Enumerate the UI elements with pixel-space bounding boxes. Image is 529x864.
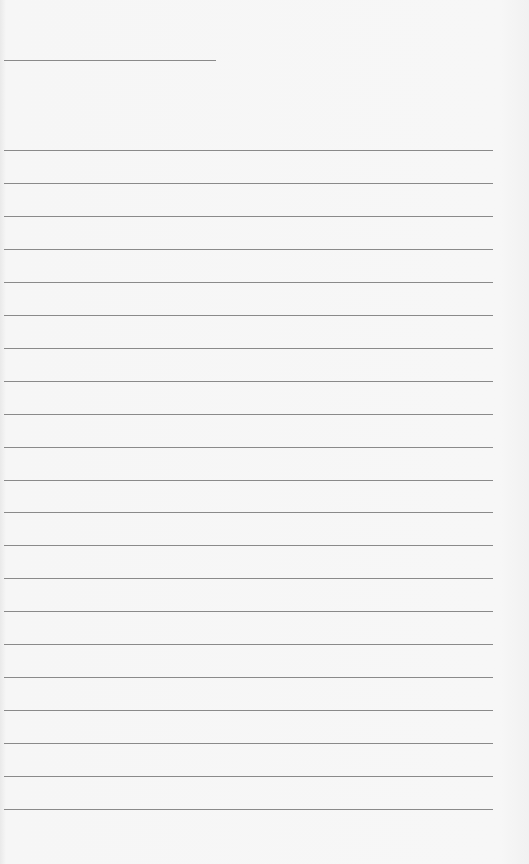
ruled-line: [4, 677, 493, 678]
ruled-line: [4, 150, 493, 151]
ruled-line: [4, 776, 493, 777]
ruled-line: [4, 249, 493, 250]
ruled-line: [4, 381, 493, 382]
ruled-line: [4, 644, 493, 645]
ruled-line: [4, 348, 493, 349]
ruled-line: [4, 512, 493, 513]
ruled-line: [4, 545, 493, 546]
ruled-line: [4, 447, 493, 448]
ruled-line: [4, 414, 493, 415]
ruled-line: [4, 315, 493, 316]
ruled-line: [4, 743, 493, 744]
ruled-line: [4, 183, 493, 184]
ruled-line: [4, 809, 493, 810]
ruled-line: [4, 480, 493, 481]
ruled-line: [4, 578, 493, 579]
ruled-line: [4, 710, 493, 711]
header-line: [4, 60, 216, 61]
ruled-line: [4, 282, 493, 283]
ruled-line: [4, 611, 493, 612]
lined-paper-page: [0, 0, 529, 864]
ruled-line: [4, 216, 493, 217]
